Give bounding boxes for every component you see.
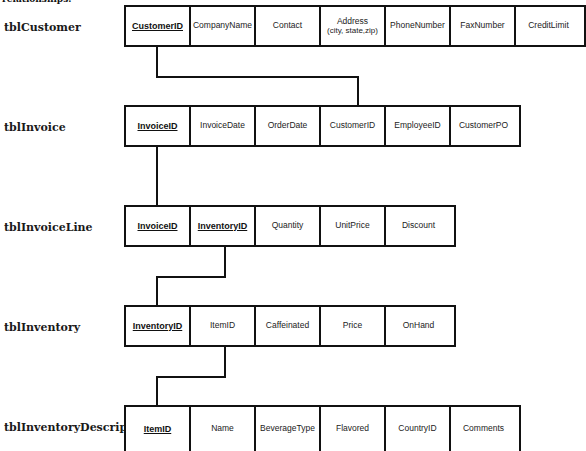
field-inventory-price: Price <box>321 307 386 345</box>
field-inventory-onhand: OnHand <box>386 307 451 345</box>
table-label-invoiceline: tblInvoiceLine <box>4 221 93 234</box>
intro-text: relationships. <box>2 0 71 4</box>
table-label-invoice: tblInvoice <box>4 121 66 134</box>
table-label-inventory: tblInventory <box>4 321 80 334</box>
field-invoice-employeeid: EmployeeID <box>386 107 451 145</box>
field-invoice-invoicedate: InvoiceDate <box>191 107 256 145</box>
field-invoice-customerid: CustomerID <box>321 107 386 145</box>
relationship-line <box>156 47 158 77</box>
field-invoice-customerpo: CustomerPO <box>451 107 516 145</box>
field-invoice-invoiceid: InvoiceID <box>126 107 191 145</box>
address-sub: (city, state,zip) <box>327 26 378 35</box>
table-label-customer: tblCustomer <box>4 21 81 34</box>
relationship-line <box>156 76 359 78</box>
field-invoiceline-quantity: Quantity <box>256 207 321 245</box>
relationship-line <box>156 376 226 378</box>
relationship-line <box>357 76 359 106</box>
table-invoice: InvoiceID InvoiceDate OrderDate Customer… <box>124 105 521 147</box>
field-customer-customerid: CustomerID <box>126 7 191 45</box>
table-inventory: InventoryID ItemID Caffeinated Price OnH… <box>124 305 456 347</box>
field-invoiceline-inventoryid: InventoryID <box>191 207 256 245</box>
field-inventory-itemid: ItemID <box>191 307 256 345</box>
relationship-line <box>224 247 226 277</box>
field-inventorydescription-name: Name <box>191 407 256 451</box>
field-inventorydescription-beveragetype: BeverageType <box>256 407 321 451</box>
field-invoiceline-invoiceid: InvoiceID <box>126 207 191 245</box>
field-invoiceline-discount: Discount <box>386 207 451 245</box>
field-inventory-caffeinated: Caffeinated <box>256 307 321 345</box>
address-label: Address <box>337 16 368 26</box>
table-inventorydescription: ItemID Name BeverageType Flavored Countr… <box>124 405 521 451</box>
field-customer-faxnumber: FaxNumber <box>451 7 516 45</box>
relationship-line <box>156 276 226 278</box>
field-inventory-inventoryid: InventoryID <box>126 307 191 345</box>
relationship-line <box>224 347 226 377</box>
field-customer-address: Address(city, state,zip) <box>321 7 386 45</box>
relationship-line <box>156 147 158 206</box>
field-inventorydescription-comments: Comments <box>451 407 516 451</box>
field-inventorydescription-countryid: CountryID <box>386 407 451 451</box>
field-customer-companyname: CompanyName <box>191 7 256 45</box>
field-invoice-orderdate: OrderDate <box>256 107 321 145</box>
field-customer-contact: Contact <box>256 7 321 45</box>
field-customer-phonenumber: PhoneNumber <box>386 7 451 45</box>
table-customer: CustomerID CompanyName Contact Address(c… <box>124 5 586 47</box>
table-invoiceline: InvoiceID InventoryID Quantity UnitPrice… <box>124 205 456 247</box>
field-customer-creditlimit: CreditLimit <box>516 7 581 45</box>
field-inventorydescription-itemid: ItemID <box>126 407 191 451</box>
relationship-line <box>156 276 158 306</box>
field-invoiceline-unitprice: UnitPrice <box>321 207 386 245</box>
relationship-line <box>156 376 158 406</box>
field-inventorydescription-flavored: Flavored <box>321 407 386 451</box>
